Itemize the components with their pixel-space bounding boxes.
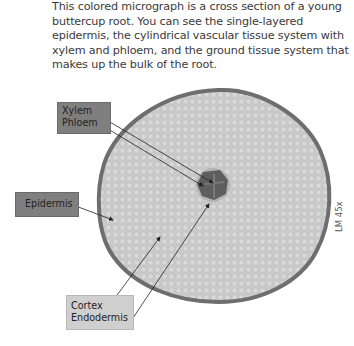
cortex-label: Cortex bbox=[71, 300, 129, 312]
xylem-label: Xylem bbox=[62, 105, 106, 117]
phloem-label: Phloem bbox=[62, 117, 106, 129]
cortex-endodermis-label: Cortex Endodermis bbox=[66, 295, 134, 330]
endodermis-label: Endodermis bbox=[71, 312, 129, 324]
root-section bbox=[99, 90, 330, 302]
epidermis-label: Epidermis bbox=[15, 192, 79, 217]
magnification-label: LM 45x bbox=[334, 201, 344, 232]
epidermis-label-text: Epidermis bbox=[25, 198, 74, 210]
xylem-phloem-label: Xylem Phloem bbox=[57, 102, 111, 134]
root-cross-section-micrograph bbox=[0, 0, 354, 346]
